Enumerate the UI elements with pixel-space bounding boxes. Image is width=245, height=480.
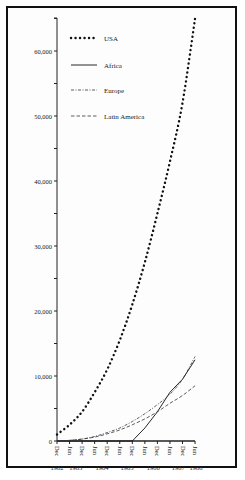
x-tick-label: Jun: [142, 446, 149, 456]
legend-label-europe: Europe: [104, 87, 124, 95]
legend-label-usa: USA: [104, 35, 118, 43]
x-tick-label: Dec: [129, 446, 136, 457]
x-tick-label: Dec: [180, 446, 187, 457]
legend-label-africa: Africa: [104, 62, 123, 70]
x-year-label: 1986: [147, 464, 161, 471]
legend-label-latin_america: Latin America: [104, 113, 145, 121]
series-africa: [57, 360, 195, 441]
x-year-label: 1982: [51, 464, 64, 471]
y-tick-label: 40,000: [34, 178, 52, 185]
y-tick-label: 0: [49, 438, 52, 445]
x-tick-label: Dec: [79, 446, 86, 457]
x-tick-label: Dec: [54, 446, 61, 457]
x-tick-label: Jun: [92, 446, 99, 456]
line-chart: 010,00020,00030,00040,00050,00060,000Dec…: [0, 0, 245, 480]
x-year-label: 1988: [190, 464, 203, 471]
x-year-label: 1983: [69, 464, 82, 471]
x-tick-label: Dec: [154, 446, 161, 457]
x-year-label: 1985: [121, 464, 134, 471]
series-latin-america: [57, 386, 195, 441]
x-tick-label: Jun: [67, 446, 74, 456]
x-year-label: 1987: [172, 464, 186, 471]
y-tick-label: 10,000: [34, 373, 52, 380]
series-europe: [57, 357, 195, 442]
x-year-label: 1984: [95, 464, 109, 471]
x-tick-label: Jun: [192, 446, 199, 456]
series-usa: [57, 19, 195, 435]
y-tick-label: 60,000: [34, 48, 52, 55]
y-tick-label: 50,000: [34, 113, 52, 120]
x-tick-label: Jun: [117, 446, 124, 456]
x-tick-label: Dec: [104, 446, 111, 457]
x-tick-label: Jun: [167, 446, 174, 456]
y-tick-label: 30,000: [34, 243, 52, 250]
y-tick-label: 20,000: [34, 308, 52, 315]
